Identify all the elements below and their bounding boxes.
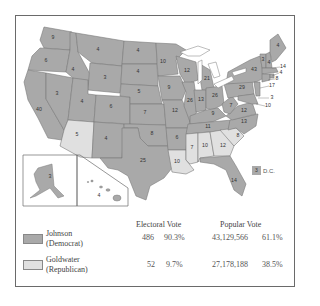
johnson-label: Johnson (Democrat) — [46, 229, 83, 248]
label-mi: 21 — [204, 75, 210, 81]
state-wa — [40, 27, 72, 50]
label-ks: 7 — [144, 109, 147, 115]
label-in: 13 — [198, 96, 204, 102]
state-nm — [92, 122, 124, 158]
label-ga: 12 — [220, 142, 226, 148]
label-id: 4 — [72, 66, 75, 72]
lake-michigan — [198, 60, 202, 84]
goldwater-party: (Republican) — [46, 265, 88, 275]
label-ct: 8 — [276, 75, 279, 81]
label-nc: 13 — [241, 118, 247, 124]
label-nj: 17 — [269, 82, 275, 88]
state-nj — [254, 82, 260, 96]
label-ri: 4 — [280, 69, 283, 75]
state-hi-maui — [106, 189, 110, 191]
goldwater-ev: 52 — [147, 260, 155, 269]
label-la: 10 — [174, 158, 180, 164]
label-md: 10 — [265, 102, 271, 108]
label-nv: 3 — [56, 90, 59, 96]
dc-swatch: 3 — [252, 166, 261, 175]
state-ak — [30, 164, 64, 198]
state-hi-big — [113, 195, 121, 201]
johnson-pop: 43,129,566 — [212, 233, 248, 242]
label-mt: 4 — [97, 46, 100, 52]
label-ny: 43 — [251, 66, 257, 72]
label-hi: 4 — [98, 192, 101, 198]
label-wy: 3 — [104, 74, 107, 80]
label-tn: 11 — [205, 123, 210, 129]
label-ut: 4 — [81, 98, 84, 104]
label-ms: 7 — [191, 144, 194, 150]
label-ar: 6 — [176, 134, 179, 140]
state-sd — [121, 64, 158, 86]
label-nd: 4 — [137, 47, 140, 53]
label-va: 12 — [241, 107, 247, 113]
label-ia: 9 — [168, 84, 171, 90]
state-hi-niihau — [87, 181, 89, 182]
label-nm: 4 — [105, 135, 108, 141]
label-pa: 29 — [239, 84, 245, 90]
label-il: 26 — [187, 97, 193, 103]
state-md — [238, 94, 258, 104]
johnson-ev: 486 — [142, 233, 154, 242]
goldwater-label: Goldwater (Republican) — [46, 255, 88, 274]
goldwater-pop: 27,178,188 — [212, 260, 248, 269]
label-ak: 3 — [49, 173, 52, 179]
label-mo: 12 — [172, 107, 178, 113]
label-mn: 10 — [160, 58, 166, 64]
johnson-ev-pct: 90.3% — [164, 233, 185, 242]
lake-superior — [180, 46, 210, 56]
state-hi-kauai — [91, 180, 93, 182]
label-ky: 9 — [212, 110, 215, 116]
state-ks — [130, 104, 166, 125]
state-fl — [200, 156, 246, 196]
electoral-vote-header: Electoral Vote — [136, 220, 181, 229]
state-nd — [122, 41, 157, 64]
state-ia — [158, 76, 186, 100]
goldwater-ev-pct: 9.7% — [166, 260, 183, 269]
state-ma — [262, 68, 278, 74]
label-ne: 5 — [138, 88, 141, 94]
johnson-party: (Democrat) — [46, 239, 83, 249]
label-wi: 12 — [184, 67, 190, 73]
label-nh: 4 — [268, 59, 271, 65]
label-al: 10 — [202, 142, 208, 148]
label-wa: 9 — [52, 34, 55, 40]
state-or — [28, 48, 70, 72]
label-vt: 3 — [262, 56, 265, 62]
label-fl: 14 — [231, 177, 237, 183]
label-wv: 7 — [230, 102, 233, 108]
label-ca: 40 — [36, 106, 42, 112]
label-ok: 8 — [151, 130, 154, 136]
label-tx: 25 — [140, 157, 146, 163]
goldwater-name: Goldwater — [46, 255, 88, 265]
state-hi-oahu — [100, 186, 103, 188]
label-az: 5 — [76, 131, 79, 137]
label-oh: 26 — [212, 92, 218, 98]
goldwater-swatch — [23, 260, 43, 270]
johnson-name: Johnson — [46, 229, 83, 239]
dc-label: D.C. — [263, 168, 275, 174]
label-co: 6 — [110, 103, 113, 109]
goldwater-pop-pct: 38.5% — [262, 260, 283, 269]
label-sd: 4 — [137, 68, 140, 74]
state-ct — [262, 74, 270, 82]
results-legend: Electoral Vote Popular Vote Johnson (Dem… — [22, 218, 292, 284]
popular-vote-header: Popular Vote — [220, 220, 261, 229]
label-me: 4 — [277, 42, 280, 48]
state-co — [94, 95, 130, 124]
johnson-swatch — [23, 234, 43, 244]
johnson-pop-pct: 61.1% — [262, 233, 283, 242]
label-sc: 8 — [237, 132, 240, 138]
label-de: 3 — [271, 94, 274, 100]
label-or: 6 — [45, 57, 48, 63]
